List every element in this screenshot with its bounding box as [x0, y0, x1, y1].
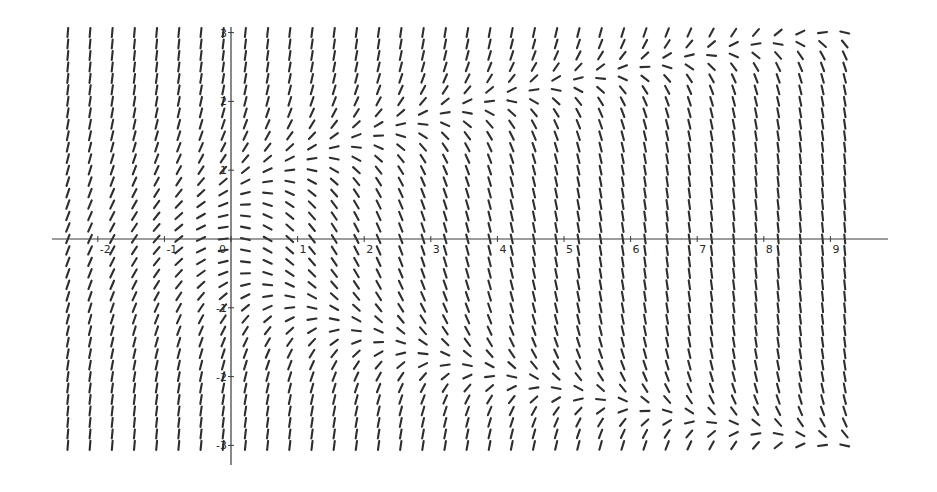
slope-segment	[511, 189, 513, 198]
slope-segment	[133, 349, 135, 358]
slope-segment	[112, 40, 113, 49]
slope-segment	[289, 51, 290, 60]
slope-segment	[399, 258, 402, 266]
slope-segment	[844, 372, 846, 381]
slope-segment	[355, 384, 358, 393]
slope-segment	[796, 432, 804, 436]
slope-segment	[644, 326, 646, 335]
slope-segment	[176, 201, 182, 208]
slope-segment	[132, 269, 136, 277]
slope-segment	[577, 166, 579, 175]
slope-segment	[755, 349, 757, 358]
slope-segment	[286, 317, 294, 321]
slope-segment	[156, 349, 158, 358]
slope-segment	[199, 155, 203, 163]
slope-segment	[799, 74, 802, 83]
slope-segment	[264, 214, 272, 218]
slope-segment	[554, 418, 558, 426]
slope-segment	[733, 223, 734, 232]
slope-segment	[398, 155, 404, 162]
slope-segment	[643, 441, 646, 450]
slope-segment	[533, 154, 536, 163]
slope-segment	[554, 109, 559, 117]
slope-segment	[619, 65, 627, 68]
slope-segment	[598, 373, 603, 381]
slope-segment	[755, 361, 757, 370]
slope-segment	[111, 349, 113, 358]
slope-segment	[264, 156, 271, 162]
slope-segment	[755, 177, 756, 186]
slope-segment	[67, 292, 70, 301]
slope-segment	[89, 361, 91, 370]
slope-segment	[532, 63, 536, 71]
slope-segment	[666, 441, 669, 449]
slope-segment	[778, 257, 779, 266]
slope-segment	[733, 154, 734, 163]
slope-segment	[178, 361, 180, 370]
slope-segment	[421, 384, 425, 392]
slope-segment	[689, 154, 691, 163]
slope-segment	[134, 28, 135, 37]
slope-segment	[222, 349, 225, 358]
slope-segment	[309, 201, 315, 207]
slope-segment	[555, 257, 557, 266]
slope-segment	[578, 212, 580, 221]
slope-segment	[200, 85, 202, 94]
slope-segment	[511, 280, 513, 289]
slope-segment	[111, 372, 112, 381]
slope-segment	[555, 40, 558, 49]
slope-segment	[731, 29, 736, 37]
slope-segment	[755, 200, 756, 209]
slope-segment	[533, 212, 535, 221]
slope-segment	[508, 88, 516, 92]
slope-segment	[822, 315, 823, 324]
slope-segment	[375, 329, 383, 333]
slope-segment	[444, 246, 447, 255]
slope-segment	[89, 384, 90, 393]
slope-segment	[133, 292, 137, 300]
slope-segment	[67, 108, 68, 117]
slope-segment	[596, 399, 605, 400]
slope-segment	[555, 200, 557, 209]
slope-segment	[778, 315, 779, 324]
slope-segment	[689, 166, 690, 175]
slope-segment	[134, 361, 136, 370]
slope-segment	[554, 51, 558, 59]
slope-segment	[441, 122, 449, 126]
slope-segment	[620, 385, 626, 392]
slope-segment	[733, 372, 735, 381]
slope-segment	[331, 133, 338, 138]
slope-segment	[577, 143, 579, 152]
slope-segment	[199, 304, 204, 311]
slope-segment	[463, 99, 471, 103]
slope-segment	[507, 100, 516, 102]
slope-segment	[578, 246, 580, 255]
slope-segment	[710, 97, 713, 106]
slope-segment	[799, 86, 801, 95]
slope-segment	[531, 396, 538, 402]
slope-segment	[443, 143, 448, 150]
slope-segment	[844, 269, 845, 278]
slope-segment	[444, 281, 447, 289]
slope-segment	[730, 42, 738, 46]
slope-segment	[198, 293, 204, 300]
slope-segment	[178, 120, 180, 129]
slope-segment	[420, 98, 426, 105]
slope-segment	[778, 292, 779, 301]
slope-segment	[223, 51, 224, 60]
slope-segment	[222, 120, 225, 129]
slope-segment	[511, 28, 513, 37]
slope-segment	[465, 143, 469, 151]
slope-segment	[530, 99, 538, 103]
slope-segment	[821, 407, 824, 415]
slope-segment	[244, 384, 246, 393]
slope-segment	[311, 384, 313, 393]
slope-segment	[178, 51, 179, 60]
slope-segment	[688, 28, 692, 36]
slope-segment	[843, 63, 846, 72]
slope-segment	[510, 51, 513, 60]
slope-segment	[330, 306, 338, 310]
slope-segment	[466, 200, 469, 209]
slope-segment	[777, 338, 778, 347]
slope-segment	[242, 305, 249, 311]
